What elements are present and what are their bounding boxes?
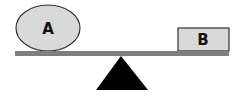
object-a: A: [16, 5, 80, 51]
object-a-label: A: [42, 20, 54, 38]
object-b: B: [178, 28, 229, 51]
fulcrum-triangle: [96, 56, 148, 90]
balance-diagram: A B: [0, 0, 239, 97]
beam: [15, 51, 229, 56]
diagram-svg: A B: [0, 0, 239, 97]
object-b-label: B: [197, 31, 208, 49]
